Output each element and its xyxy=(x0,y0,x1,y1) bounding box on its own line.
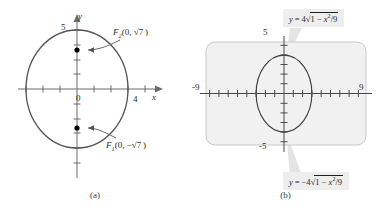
screen-y-max-label: 5 xyxy=(263,27,268,37)
panel-b-graph xyxy=(190,0,381,190)
x-axis-label: x xyxy=(152,92,156,102)
eq-bottom-coef: −4 xyxy=(302,177,311,187)
x-axis xyxy=(18,86,163,93)
focus-upper-coords: (0, √7 ) xyxy=(122,27,148,37)
eq-bottom-radicand: 1 − x2/9 xyxy=(314,175,343,187)
focus-lower-label: F1(0, −√7 ) xyxy=(106,140,146,152)
eq-bottom-one-minus: 1 − xyxy=(315,177,328,187)
panel-a-caption: (a) xyxy=(0,190,190,200)
eq-top-denominator: /9 xyxy=(331,14,338,24)
eq-top-one-minus: 1 − xyxy=(311,14,324,24)
equation-callout-bottom: y=−4√1 − x2/9 xyxy=(283,172,349,190)
screen-x-max-label: 9 xyxy=(359,82,364,92)
eq-top-lhs: y xyxy=(289,14,293,24)
focus-upper-point xyxy=(74,47,79,52)
panel-b-caption: (b) xyxy=(190,190,381,200)
figure-container: y x 5 4 0 F2(0, √7 ) F1(0, −√7 ) (a) xyxy=(0,0,381,216)
panel-a-graph xyxy=(0,0,190,190)
panel-b: -9 9 5 -5 y=4√1 − x2/9 y=−4√1 − x2/9 (b) xyxy=(190,0,381,216)
y-tick-label-5: 5 xyxy=(61,22,66,32)
focus-upper-label: F2(0, √7 ) xyxy=(113,27,148,39)
eq-top-radicand: 1 − x2/9 xyxy=(310,12,339,24)
screen-x-min-label: -9 xyxy=(192,82,200,92)
eq-top-equals: = xyxy=(295,14,300,24)
eq-bottom-equals: = xyxy=(295,177,300,187)
focus-lower-coords: (0, −√7 ) xyxy=(115,140,146,150)
screen-y-min-label: -5 xyxy=(259,141,267,151)
focus-lower-point xyxy=(74,125,79,130)
panel-a: y x 5 4 0 F2(0, √7 ) F1(0, −√7 ) (a) xyxy=(0,0,190,216)
y-axis-label: y xyxy=(78,11,82,21)
eq-bottom-lhs: y xyxy=(289,177,293,187)
x-tick-label-4: 4 xyxy=(133,94,138,104)
origin-label: 0 xyxy=(76,93,81,103)
eq-bottom-denominator: /9 xyxy=(335,177,342,187)
equation-callout-top: y=4√1 − x2/9 xyxy=(283,9,344,27)
